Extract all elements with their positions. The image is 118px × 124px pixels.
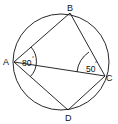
angle-unit-c: °	[95, 60, 97, 66]
segment-ab	[14, 13, 70, 62]
point-label-b: B	[67, 3, 73, 13]
segment-cd	[68, 76, 105, 110]
cyclic-quadrilateral-diagram: A B C D 80 ° 50 °	[0, 0, 118, 124]
point-label-d: D	[65, 113, 72, 123]
point-label-c: C	[106, 73, 113, 83]
angle-value-a: 80	[22, 58, 32, 68]
point-label-a: A	[3, 57, 9, 67]
angle-unit-a: °	[32, 55, 34, 61]
